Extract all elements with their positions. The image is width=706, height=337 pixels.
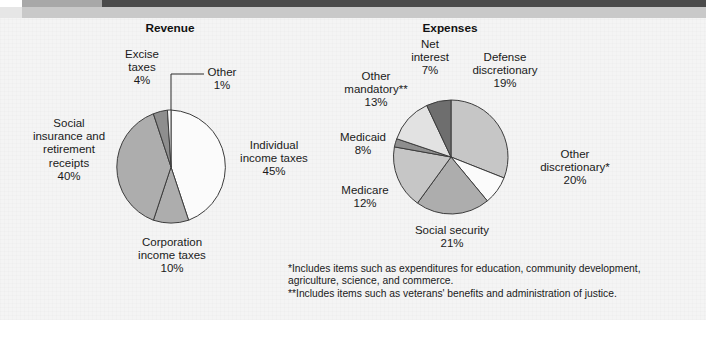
- revenue-chart-title: Revenue: [120, 21, 220, 35]
- expenses-label-other-mandatory: Other mandatory** 13%: [334, 70, 418, 110]
- top-dark-bar: [22, 0, 706, 7]
- expenses-label-medicare: Medicare 12%: [332, 184, 398, 210]
- footnote-line-3: **Includes items such as veterans' benef…: [288, 288, 617, 300]
- top-gray-bar-corner: [0, 7, 22, 18]
- expenses-label-defense-discretionary: Defense discretionary 19%: [463, 51, 547, 91]
- revenue-pie-chart: [113, 109, 229, 225]
- top-gray-bar: [0, 7, 706, 18]
- expenses-pie-chart: [393, 99, 509, 215]
- revenue-label-other: Other 1%: [197, 66, 247, 92]
- footnote-line-1: *Includes items such as expenditures for…: [288, 263, 641, 275]
- figure-bottom-margin: [0, 320, 706, 337]
- expenses-label-medicaid: Medicaid 8%: [330, 131, 396, 157]
- revenue-label-individual-income-taxes: Individual income taxes 45%: [231, 139, 317, 179]
- revenue-label-corporation-income-taxes: Corporation income taxes 10%: [128, 236, 216, 276]
- expenses-chart-title: Expenses: [400, 21, 500, 35]
- revenue-label-social-insurance: Social insurance and retirement receipts…: [22, 117, 116, 183]
- revenue-label-excise-taxes: Excise taxes 4%: [108, 48, 176, 88]
- expenses-label-other-discretionary: Other discretionary* 20%: [528, 148, 622, 188]
- figure-canvas: Revenue Excise taxes 4% Other 1% Social …: [0, 0, 706, 337]
- expenses-label-social-security: Social security 21%: [398, 224, 506, 250]
- footnote-line-2: agriculture, science, and commerce.: [288, 275, 453, 287]
